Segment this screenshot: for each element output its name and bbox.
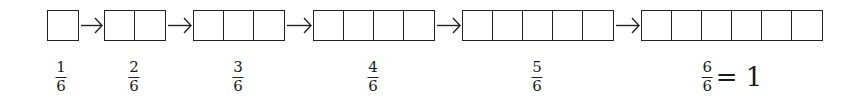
- right-arrow-icon: [614, 10, 641, 41]
- strip-cell: [374, 11, 404, 40]
- numerator: 6: [702, 60, 712, 75]
- strip-cell: [48, 11, 78, 40]
- denominator: 6: [233, 79, 243, 94]
- strip-cell: [672, 11, 702, 40]
- fraction: 66: [702, 60, 713, 94]
- fraction: 36: [233, 60, 244, 94]
- fraction-label: 36: [233, 60, 244, 94]
- denominator: 6: [56, 79, 66, 94]
- numerator: 2: [129, 60, 139, 75]
- strip-cell: [553, 11, 583, 40]
- fraction-strip-3: [193, 10, 285, 41]
- strip-cell: [523, 11, 553, 40]
- strip-cell: [135, 11, 165, 40]
- fraction-strip-1: [47, 10, 79, 41]
- right-arrow-icon: [285, 10, 313, 41]
- fraction: 26: [129, 60, 140, 94]
- strip-cell: [463, 11, 493, 40]
- strip-cell: [642, 11, 672, 40]
- equals-one: = 1: [716, 62, 763, 92]
- right-arrow-icon: [166, 10, 193, 41]
- strip-cell: [105, 11, 135, 40]
- denominator: 6: [702, 79, 712, 94]
- strip-cell: [493, 11, 523, 40]
- numerator: 1: [56, 60, 66, 75]
- right-arrow-icon: [79, 10, 104, 41]
- strip-cell: [194, 11, 224, 40]
- denominator: 6: [129, 79, 139, 94]
- fraction-strip-2: [104, 10, 166, 41]
- fraction-strip-6: [641, 10, 823, 41]
- strip-cell: [732, 11, 762, 40]
- fraction-label: 56: [532, 60, 543, 94]
- strip-cell: [404, 11, 434, 40]
- fraction-label: 46: [368, 60, 379, 94]
- fraction: 46: [368, 60, 379, 94]
- strip-cell: [762, 11, 792, 40]
- strip-cell: [254, 11, 284, 40]
- fraction-label: 16: [56, 60, 67, 94]
- denominator: 6: [532, 79, 542, 94]
- fraction-label: 66= 1: [702, 60, 763, 94]
- fraction-label: 26: [129, 60, 140, 94]
- strip-cell: [224, 11, 254, 40]
- strip-cell: [702, 11, 732, 40]
- fraction-strip-5: [462, 10, 614, 41]
- strip-cell: [314, 11, 344, 40]
- numerator: 4: [368, 60, 378, 75]
- strip-cell: [792, 11, 822, 40]
- strip-cell: [583, 11, 613, 40]
- fraction: 56: [532, 60, 543, 94]
- numerator: 5: [532, 60, 542, 75]
- fraction: 16: [56, 60, 67, 94]
- fraction-strip-4: [313, 10, 435, 41]
- strip-cell: [344, 11, 374, 40]
- denominator: 6: [368, 79, 378, 94]
- numerator: 3: [233, 60, 243, 75]
- right-arrow-icon: [435, 10, 462, 41]
